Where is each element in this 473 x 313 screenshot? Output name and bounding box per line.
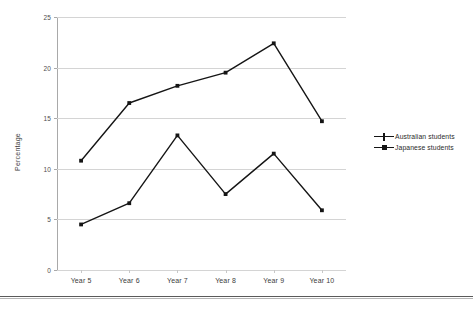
legend-item-japanese-students: Japanese students xyxy=(374,142,470,153)
x-tick-label: Year 7 xyxy=(167,277,188,284)
y-tick-mark xyxy=(54,270,57,271)
footer-divider-secondary xyxy=(0,298,473,299)
footer-divider xyxy=(0,296,473,297)
x-tick-mark xyxy=(129,270,130,273)
y-tick-label: 25 xyxy=(44,14,51,21)
y-axis-title: Percentage xyxy=(14,133,21,171)
x-tick-label: Year 10 xyxy=(309,277,334,284)
y-tick-label: 20 xyxy=(44,64,51,71)
y-tick-label: 0 xyxy=(47,267,51,274)
chart-legend: Australian students Japanese students xyxy=(374,131,470,153)
y-gridline xyxy=(57,118,346,119)
x-tick-label: Year 8 xyxy=(215,277,236,284)
legend-marker-square-icon xyxy=(374,143,394,152)
legend-label: Japanese students xyxy=(395,144,454,151)
x-tick-mark xyxy=(177,270,178,273)
line-chart: Percentage 0510152025 Year 5Year 6Year 7… xyxy=(0,0,380,296)
legend-item-australian-students: Australian students xyxy=(374,131,470,142)
x-tick-mark xyxy=(274,270,275,273)
x-tick-label: Year 9 xyxy=(263,277,284,284)
y-tick-label: 5 xyxy=(47,216,51,223)
legend-marker-cross-icon xyxy=(374,132,394,141)
y-gridline xyxy=(57,68,346,69)
chart-page: Percentage 0510152025 Year 5Year 6Year 7… xyxy=(0,0,473,313)
x-tick-mark xyxy=(226,270,227,273)
x-tick-label: Year 6 xyxy=(119,277,140,284)
y-tick-mark xyxy=(54,17,57,18)
y-tick-mark xyxy=(54,118,57,119)
y-gridline xyxy=(57,219,346,220)
y-gridline xyxy=(57,169,346,170)
y-gridline xyxy=(57,270,346,271)
y-tick-label: 15 xyxy=(44,115,51,122)
y-tick-mark xyxy=(54,219,57,220)
y-gridline xyxy=(57,17,346,18)
y-tick-mark xyxy=(54,169,57,170)
y-tick-label: 10 xyxy=(44,165,51,172)
legend-label: Australian students xyxy=(395,133,455,140)
plot-area: 0510152025 xyxy=(57,17,346,270)
x-tick-label: Year 5 xyxy=(71,277,92,284)
x-tick-mark xyxy=(81,270,82,273)
x-tick-mark xyxy=(322,270,323,273)
y-tick-mark xyxy=(54,68,57,69)
